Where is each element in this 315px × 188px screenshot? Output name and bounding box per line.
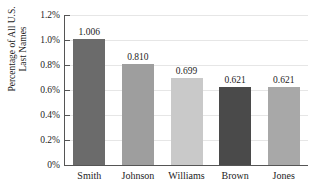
y-axis-tick-label: 1.0% bbox=[40, 35, 60, 45]
bar-williams[interactable]: 0.699Williams bbox=[171, 78, 203, 165]
bar-chart: Most Common U.S. Last Names Percentage o… bbox=[0, 0, 315, 188]
bars-layer: 1.006Smith0.810Johnson0.699Williams0.621… bbox=[65, 15, 308, 165]
y-axis-title-line-2: Last Names bbox=[18, 26, 30, 71]
x-axis-line bbox=[64, 165, 308, 166]
y-axis-title: Percentage of All U.S. Last Names bbox=[5, 0, 31, 119]
bar-value-label: 1.006 bbox=[79, 27, 100, 37]
bar-value-label: 0.699 bbox=[176, 66, 197, 76]
y-axis-tick-label: 0% bbox=[47, 160, 60, 170]
bar-value-label: 0.810 bbox=[127, 52, 148, 62]
bar-brown[interactable]: 0.621Brown bbox=[219, 87, 251, 165]
plot-area: 0%0.2%0.4%0.6%0.8%1.0%1.2% 1.006Smith0.8… bbox=[64, 15, 308, 165]
x-axis-category-label: Williams bbox=[168, 170, 204, 181]
y-axis-tick bbox=[65, 165, 70, 166]
x-axis-category-label: Brown bbox=[221, 170, 248, 181]
bar-smith[interactable]: 1.006Smith bbox=[73, 39, 105, 165]
y-axis-tick-label: 0.8% bbox=[40, 60, 60, 70]
y-axis-tick-label: 0.2% bbox=[40, 135, 60, 145]
x-axis-category-label: Johnson bbox=[121, 170, 154, 181]
y-axis-tick-label: 1.2% bbox=[40, 10, 60, 20]
bar-value-label: 0.621 bbox=[273, 75, 294, 85]
x-axis-category-label: Jones bbox=[273, 170, 295, 181]
y-axis-tick-label: 0.6% bbox=[40, 85, 60, 95]
bar-johnson[interactable]: 0.810Johnson bbox=[122, 64, 154, 165]
chart-title: Most Common U.S. Last Names bbox=[0, 0, 315, 2]
x-axis-category-label: Smith bbox=[77, 170, 101, 181]
bar-value-label: 0.621 bbox=[224, 75, 245, 85]
y-axis-tick-label: 0.4% bbox=[40, 110, 60, 120]
bar-jones[interactable]: 0.621Jones bbox=[268, 87, 300, 165]
y-axis-title-line-1: Percentage of All U.S. bbox=[7, 6, 19, 91]
